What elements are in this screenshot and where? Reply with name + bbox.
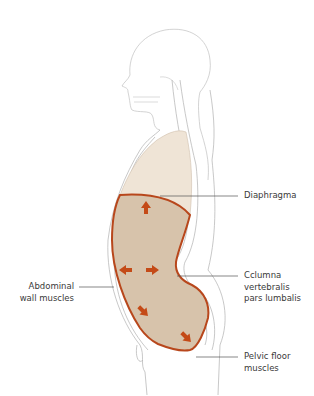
- label-columna-vertebralis: Cclumna vertebralis pars lumbalis: [244, 270, 301, 305]
- label-line: pars lumbalis: [244, 293, 301, 305]
- label-pelvic-floor-muscles: Pelvic floor muscles: [244, 351, 290, 374]
- label-line: Cclumna: [244, 270, 301, 282]
- label-line: wall muscles: [20, 293, 74, 305]
- label-line: muscles: [244, 363, 290, 375]
- label-diaphragma: Diaphragma: [244, 190, 297, 202]
- label-line: Pelvic floor: [244, 351, 290, 363]
- abdominal-cavity: [112, 195, 208, 351]
- label-line: Diaphragma: [244, 190, 297, 202]
- label-abdominal-wall-muscles: Abdominal wall muscles: [20, 281, 74, 304]
- label-line: vertebralis: [244, 282, 301, 294]
- label-line: Abdominal: [20, 281, 74, 293]
